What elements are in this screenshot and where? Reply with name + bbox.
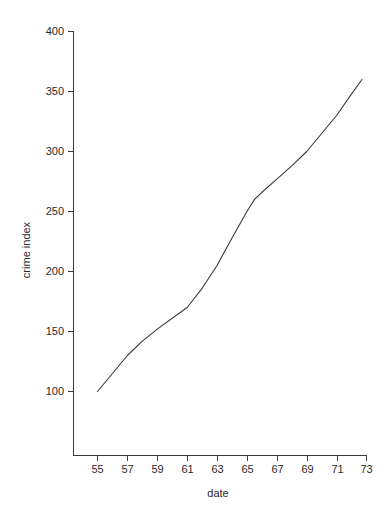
x-tick-label: 57 [121, 463, 133, 475]
x-axis-ticks [98, 456, 367, 462]
x-axis-title: date [207, 487, 228, 499]
x-tick-label: 59 [151, 463, 163, 475]
x-axis-tick-labels: 55 57 59 61 63 65 67 69 71 73 [91, 463, 372, 475]
y-tick-label: 300 [46, 145, 64, 157]
y-tick-label: 200 [46, 265, 64, 277]
y-axis-tick-labels: 400 350 300 250 200 150 100 [46, 25, 64, 397]
data-line-crime-index [98, 80, 363, 392]
chart-figure: 400 350 300 250 200 150 100 55 57 59 6 [0, 0, 384, 521]
x-tick-label: 71 [331, 463, 343, 475]
y-axis-title: crime index [20, 221, 32, 278]
x-tick-label: 61 [181, 463, 193, 475]
y-axis-ticks [68, 32, 74, 392]
x-tick-label: 67 [271, 463, 283, 475]
y-tick-label: 400 [46, 25, 64, 37]
x-tick-label: 55 [91, 463, 103, 475]
x-tick-label: 65 [241, 463, 253, 475]
y-tick-label: 150 [46, 325, 64, 337]
y-tick-label: 250 [46, 205, 64, 217]
x-tick-label: 73 [360, 463, 372, 475]
y-tick-label: 350 [46, 85, 64, 97]
y-tick-label: 100 [46, 385, 64, 397]
x-tick-label: 63 [211, 463, 223, 475]
x-tick-label: 69 [301, 463, 313, 475]
line-chart-canvas: 400 350 300 250 200 150 100 55 57 59 6 [0, 0, 384, 521]
